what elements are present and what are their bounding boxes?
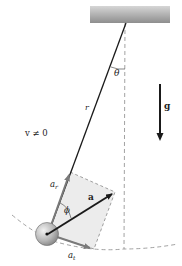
radial-acceleration-subscript: r	[55, 183, 58, 190]
gravity-arrow-head	[157, 133, 164, 141]
radial-acceleration-label: ar	[50, 180, 58, 190]
acceleration-a-label: a	[88, 193, 94, 202]
ceiling-support	[90, 6, 170, 23]
theta-label: θ	[114, 69, 119, 78]
gravity-label: g	[164, 102, 170, 111]
phi-label: ϕ	[64, 206, 70, 215]
tangential-acceleration-label: at	[68, 251, 76, 261]
length-r-label: r	[85, 104, 89, 112]
velocity-label: v ≠ 0	[25, 129, 48, 138]
tangential-acceleration-subscript: t	[73, 254, 75, 261]
vertical-reference-line	[124, 23, 125, 249]
